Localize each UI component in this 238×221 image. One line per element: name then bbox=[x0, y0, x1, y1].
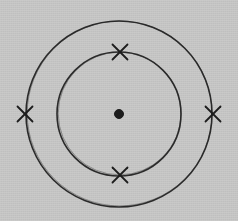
bohr-model-diagram bbox=[0, 0, 238, 221]
diagram-vector-layer bbox=[0, 0, 238, 221]
electron-outer-left-marker bbox=[18, 107, 33, 122]
nucleus-dot bbox=[115, 110, 124, 119]
electron-outer-right-marker bbox=[206, 107, 221, 122]
